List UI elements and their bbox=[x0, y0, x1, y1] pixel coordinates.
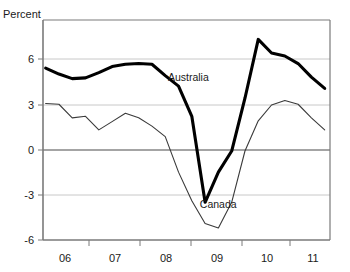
ytick-label-minus-6: -6 bbox=[24, 234, 34, 246]
xtick-label-10: 10 bbox=[261, 252, 273, 264]
series-label-canada: Canada bbox=[200, 198, 237, 210]
xtick-label-08: 08 bbox=[160, 252, 172, 264]
chart-plot: 6 3 0 -3 -6 06 07 08 09 10 11 Australia … bbox=[0, 0, 350, 272]
y-tick-labels: 6 3 0 -3 -6 bbox=[24, 53, 34, 246]
xtick-label-09: 09 bbox=[211, 252, 223, 264]
chart-container: Percent 6 3 0 -3 -6 bbox=[0, 0, 350, 272]
ytick-label-0: 0 bbox=[28, 144, 34, 156]
ytick-label-3: 3 bbox=[28, 99, 34, 111]
line-series-australia bbox=[46, 39, 325, 202]
xtick-label-06: 06 bbox=[59, 252, 71, 264]
ytick-label-minus-3: -3 bbox=[24, 189, 34, 201]
x-tick-marks bbox=[89, 240, 290, 246]
xtick-label-11: 11 bbox=[307, 252, 318, 264]
x-tick-labels: 06 07 08 09 10 11 bbox=[59, 252, 319, 264]
series-label-australia: Australia bbox=[168, 71, 209, 83]
xtick-label-07: 07 bbox=[109, 252, 121, 264]
line-series-canada bbox=[46, 100, 325, 227]
ytick-label-6: 6 bbox=[28, 53, 34, 65]
plot-frame bbox=[43, 20, 330, 240]
